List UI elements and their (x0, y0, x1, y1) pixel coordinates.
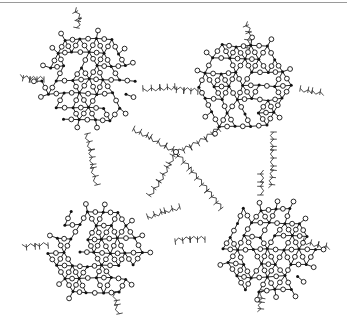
oxygen-atom (66, 44, 71, 49)
oxygen-atom (305, 247, 310, 252)
oxygen-atom (116, 276, 121, 281)
silicon-atom (62, 118, 65, 121)
oxygen-atom (246, 240, 251, 245)
oxygen-atom (252, 50, 257, 55)
oxygen-atom (293, 227, 298, 232)
oxygen-atom (59, 57, 64, 62)
silicon-atom (101, 78, 104, 81)
oxygen-atom (80, 283, 85, 288)
junction-atom (173, 149, 178, 154)
silicon-atom (118, 79, 121, 82)
oxygen-atom (242, 97, 247, 102)
oxygen-atom (290, 221, 295, 226)
oxygen-atom (266, 262, 271, 267)
silicon-atom (71, 79, 74, 82)
alkyl-chain-br-center (175, 151, 223, 211)
oxygen-atom (106, 44, 111, 49)
oxygen-atom (111, 243, 116, 248)
silicon-atom (244, 288, 247, 291)
oxygen-atom (269, 104, 274, 109)
silicon-atom (110, 38, 113, 41)
hydroxyl-oxygen (95, 125, 100, 130)
silicon-atom (298, 222, 301, 225)
oxygen-atom (124, 236, 129, 241)
silicon-atom (79, 223, 82, 226)
silicon-atom (221, 98, 224, 101)
oxygen-atom (109, 78, 114, 83)
oxygen-atom (308, 255, 313, 260)
oxygen-atom (240, 124, 245, 129)
oxygen-atom (54, 91, 59, 96)
oxygen-atom (254, 214, 259, 219)
oxygen-atom (230, 104, 235, 109)
oxygen-atom (216, 91, 221, 96)
oxygen-atom (96, 230, 101, 235)
hydroxyl-oxygen (130, 218, 135, 223)
oxygen-atom (62, 78, 67, 83)
oxygen-atom (94, 77, 99, 82)
oxygen-atom (95, 256, 100, 261)
oxygen-atom (261, 50, 266, 55)
oxygen-atom (81, 216, 86, 221)
silicon-atom (124, 278, 127, 281)
oxygen-atom (238, 240, 243, 245)
oxygen-atom (94, 106, 99, 111)
oxygen-atom (246, 63, 251, 68)
silicon-atom (117, 52, 120, 55)
oxygen-atom (243, 247, 248, 252)
oxygen-atom (223, 90, 228, 95)
silicon-atom (71, 264, 74, 267)
oxygen-atom (261, 241, 266, 246)
hydroxyl-oxygen (129, 282, 134, 287)
silicon-atom (291, 234, 294, 237)
oxygen-atom (98, 57, 103, 62)
oxygen-atom (108, 263, 113, 268)
oxygen-atom (119, 257, 124, 262)
hydroxyl-oxygen (250, 35, 255, 40)
oxygen-atom (261, 64, 266, 69)
oxygen-atom (264, 288, 269, 293)
oxygen-atom (227, 43, 232, 48)
oxygen-atom (85, 117, 90, 122)
silicon-atom (110, 276, 113, 279)
oxygen-atom (120, 217, 125, 222)
hydroxyl-oxygen (67, 296, 72, 301)
oxygen-atom (94, 50, 99, 55)
silicon-atom (211, 56, 214, 59)
oxygen-atom (256, 123, 261, 128)
silicon-atom (222, 247, 225, 250)
silicon-atom (314, 248, 317, 251)
hydroxyl-oxygen (288, 67, 293, 72)
silicon-atom (64, 277, 67, 280)
silicon-atom (56, 237, 59, 240)
oxygen-atom (224, 49, 229, 54)
oxygen-atom (78, 50, 83, 55)
hydroxyl-oxygen (148, 250, 153, 255)
oxygen-atom (108, 210, 113, 215)
oxygen-atom (92, 264, 97, 269)
silicon-atom (108, 119, 111, 122)
silicon-atom (111, 91, 114, 94)
silicon-atom (235, 45, 238, 48)
silicon-atom (86, 238, 89, 241)
oxygen-atom (59, 270, 64, 275)
oxygen-atom (245, 90, 250, 95)
silicon-atom (96, 64, 99, 67)
oxygen-atom (104, 257, 109, 262)
silicon-atom (259, 236, 262, 239)
oxygen-atom (269, 51, 274, 56)
oxygen-atom (119, 230, 124, 235)
silicon-atom (234, 71, 237, 74)
silicon-atom (272, 111, 275, 114)
oxygen-atom (97, 217, 102, 222)
oxygen-atom (126, 257, 131, 262)
oxygen-atom (235, 56, 240, 61)
alkyl-chain-bl-left (22, 242, 49, 250)
oxygen-atom (226, 71, 231, 76)
silicon-atom (109, 252, 112, 255)
oxygen-atom (245, 118, 250, 123)
oxygen-atom (293, 254, 298, 259)
oxygen-atom (238, 214, 243, 219)
silicon-atom (257, 58, 260, 61)
silicon-atom (78, 277, 81, 280)
